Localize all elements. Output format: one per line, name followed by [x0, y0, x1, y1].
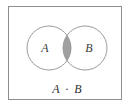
expression-left-operand: A: [51, 82, 60, 96]
expression-operator-icon: ·: [65, 82, 69, 96]
expression-right-operand: B: [74, 82, 82, 96]
expression-caption: A · B: [51, 82, 82, 96]
venn-diagram-figure: A B A · B: [0, 0, 132, 111]
venn-diagram-canvas: A B A · B: [0, 0, 132, 111]
set-a-label: A: [40, 41, 49, 55]
set-b-label: B: [85, 41, 93, 55]
